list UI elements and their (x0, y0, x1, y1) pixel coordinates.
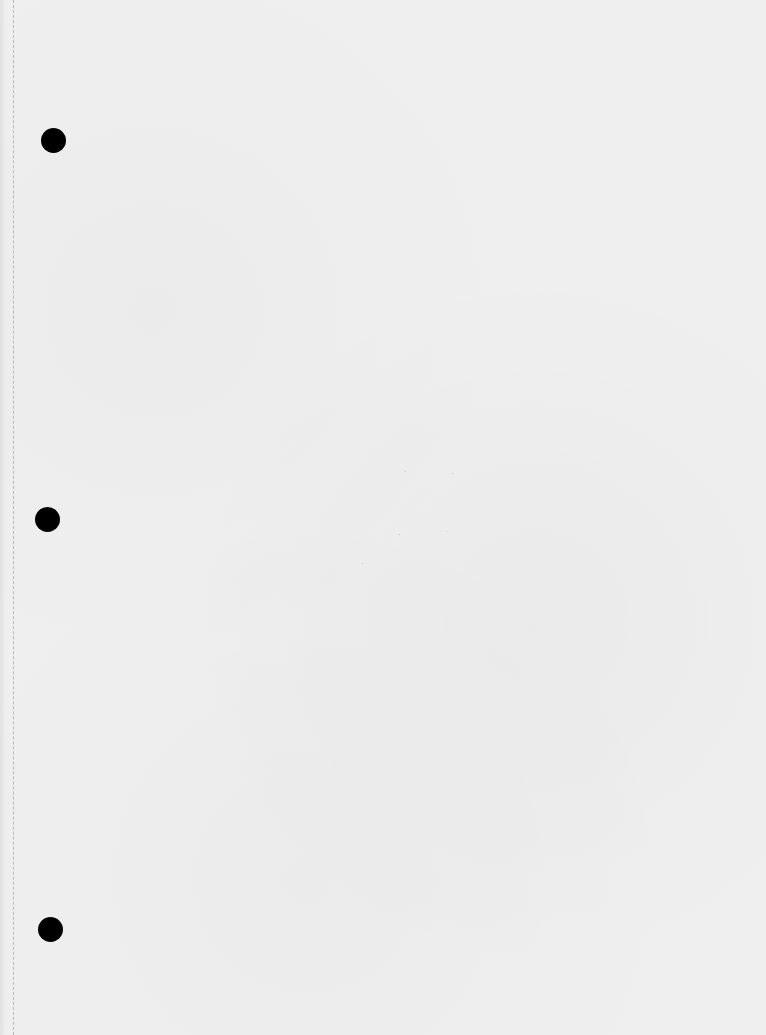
perforation-line (13, 0, 14, 1035)
blank-paper-sheet (0, 0, 766, 1035)
paper-speck (446, 531, 447, 532)
paper-speck (405, 471, 406, 472)
paper-speck (362, 563, 363, 564)
punch-hole-middle (35, 507, 60, 532)
paper-speck (452, 473, 453, 474)
page-edge-shadow (0, 0, 6, 1035)
punch-hole-bottom (38, 917, 63, 942)
paper-speck (399, 534, 400, 535)
punch-hole-top (41, 128, 66, 153)
